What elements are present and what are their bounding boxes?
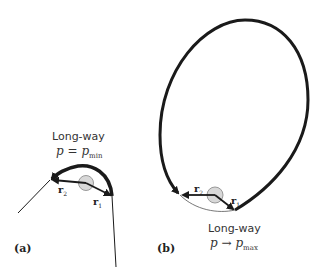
long-way-ellipse: [160, 20, 308, 210]
panel-a-graphics: [18, 166, 116, 267]
condition-var: p: [210, 236, 218, 250]
panel-b-graphics: [160, 20, 308, 211]
condition-op: =: [68, 144, 78, 158]
r1-label: r1: [93, 196, 102, 209]
condition-sub: max: [243, 244, 258, 252]
diagram-graphics: [0, 0, 323, 267]
orbit-diagram: Long-way p = pmin r2 r1 (a) r2 r1 Long-w…: [0, 0, 323, 267]
asymptote-line: [18, 180, 50, 213]
condition-op: →: [222, 236, 232, 250]
asymptote-line: [112, 196, 116, 267]
panel-a-label: (a): [14, 242, 32, 255]
panel-a-condition: p = pmin: [56, 144, 102, 160]
condition-subvar: p: [81, 144, 89, 158]
r1-label: r1: [231, 195, 240, 208]
panel-b-title: Long-way: [208, 222, 261, 235]
condition-sub: min: [89, 152, 102, 160]
r2-label: r2: [58, 184, 67, 197]
r2-label: r2: [194, 183, 203, 196]
panel-b-condition: p → pmax: [210, 236, 258, 252]
condition-subvar: p: [235, 236, 243, 250]
condition-var: p: [56, 144, 64, 158]
panel-a-title: Long-way: [52, 130, 105, 143]
panel-b-label: (b): [157, 242, 175, 255]
